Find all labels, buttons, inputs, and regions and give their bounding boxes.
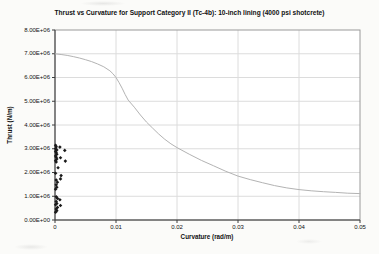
x-axis-tick-label: 0.04 <box>293 224 305 231</box>
y-axis-tick-label: 4.00E+06 <box>24 122 50 129</box>
y-axis-tick-label: 0.00E+00 <box>24 217 50 224</box>
x-axis-tick-label: 0.05 <box>354 224 366 231</box>
y-axis-tick-label: 7.00E+06 <box>24 50 50 57</box>
y-axis-tick-label: 6.00E+06 <box>24 74 50 81</box>
y-axis-tick-label: 5.00E+06 <box>24 98 50 105</box>
y-axis-tick-label: 8.00E+06 <box>24 27 50 34</box>
chart-canvas <box>0 0 379 254</box>
y-axis-tick-label: 3.00E+06 <box>24 145 50 152</box>
x-axis-tick-label: 0.01 <box>110 224 122 231</box>
chart-page: Thrust vs Curvature for Support Category… <box>0 0 379 254</box>
y-axis-tick-label: 2.00E+06 <box>24 169 50 176</box>
y-axis-tick-label: 1.00E+06 <box>24 193 50 200</box>
x-axis-tick-label: 0.02 <box>171 224 183 231</box>
x-axis-tick-label: 0 <box>53 224 56 231</box>
x-axis-tick-label: 0.03 <box>232 224 244 231</box>
